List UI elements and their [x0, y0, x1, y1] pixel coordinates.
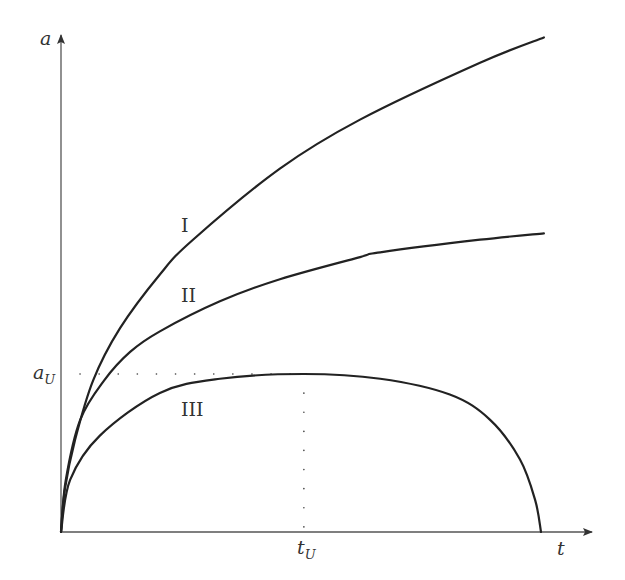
a-u-label: aU — [33, 361, 56, 387]
curve-II — [61, 233, 544, 532]
curve-label-I: I — [181, 214, 189, 236]
chart: a t aU tU I II III — [0, 0, 625, 580]
curve-label-III: III — [181, 398, 204, 420]
curve-I — [61, 37, 544, 532]
y-axis-label: a — [40, 27, 51, 49]
curves — [61, 37, 544, 532]
curve-III — [61, 374, 541, 532]
x-axis-label: t — [557, 537, 565, 559]
t-u-label: tU — [297, 536, 317, 562]
curve-label-II: II — [181, 284, 196, 306]
